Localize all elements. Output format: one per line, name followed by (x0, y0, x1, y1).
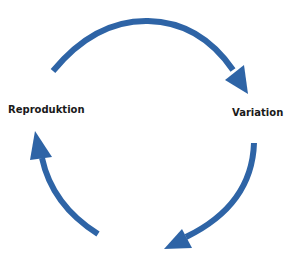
bottom-left-arrow (30, 131, 98, 234)
cycle-arrows-canvas (0, 0, 285, 263)
node-label-variation: Variation (232, 107, 283, 119)
top-arrow (53, 21, 248, 94)
bottom-right-arrow-shaft (186, 143, 254, 237)
bottom-left-arrow-shaft (42, 158, 98, 234)
cycle-diagram: Reproduktion Variation (0, 0, 285, 263)
top-arrow-shaft (53, 21, 233, 71)
bottom-left-arrow-head-icon (30, 131, 52, 160)
bottom-right-arrow (164, 143, 254, 249)
node-label-reproduktion: Reproduktion (8, 104, 85, 116)
top-arrow-head-icon (225, 65, 248, 94)
